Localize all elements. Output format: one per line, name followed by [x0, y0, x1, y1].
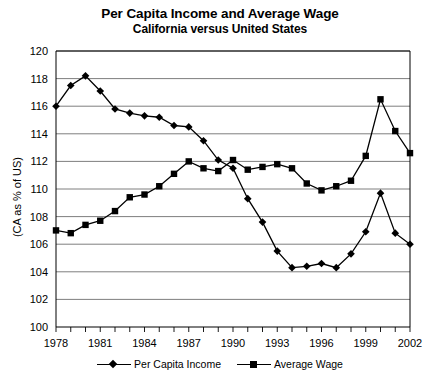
y-tick-label: 114	[30, 128, 48, 140]
y-tick-label: 108	[30, 211, 48, 223]
data-point-marker	[97, 218, 103, 224]
data-point-marker	[200, 165, 206, 171]
data-point-marker	[230, 157, 236, 163]
data-point-marker	[244, 195, 252, 203]
data-point-marker	[53, 227, 59, 233]
data-point-marker	[392, 128, 398, 134]
data-point-marker	[407, 150, 413, 156]
data-point-marker	[68, 230, 74, 236]
y-tick-label: 118	[30, 73, 48, 85]
data-point-marker	[333, 183, 339, 189]
data-point-marker	[303, 262, 311, 270]
data-point-marker	[141, 191, 147, 197]
chart-legend: Per Capita Income Average Wage	[0, 358, 440, 370]
y-tick-label: 112	[30, 155, 48, 167]
chart-container: Per Capita Income and Average Wage Calif…	[0, 0, 440, 386]
data-point-marker	[259, 164, 265, 170]
y-tick-label: 120	[30, 45, 48, 57]
data-point-marker	[156, 183, 162, 189]
legend-item-average-wage[interactable]: Average Wage	[237, 358, 343, 370]
data-point-marker	[274, 161, 280, 167]
data-point-marker	[171, 171, 177, 177]
legend-label: Per Capita Income	[134, 358, 221, 370]
data-point-marker	[377, 96, 383, 102]
y-tick-label: 110	[30, 183, 48, 195]
x-tick-label: 1978	[44, 337, 68, 349]
data-point-marker	[289, 165, 295, 171]
y-tick-label: 106	[30, 238, 48, 250]
legend-label: Average Wage	[274, 358, 343, 370]
data-point-marker	[377, 189, 385, 197]
data-point-marker	[126, 109, 134, 117]
data-point-marker	[318, 260, 326, 268]
legend-item-per-capita-income[interactable]: Per Capita Income	[97, 358, 221, 370]
data-point-marker	[245, 166, 251, 172]
y-tick-label: 100	[30, 321, 48, 333]
data-point-marker	[170, 122, 178, 130]
x-tick-label: 1993	[265, 337, 289, 349]
diamond-marker-icon	[97, 358, 131, 370]
x-tick-label: 1990	[221, 337, 245, 349]
x-tick-label: 1981	[88, 337, 112, 349]
x-tick-marks-group	[56, 327, 410, 332]
x-tick-label: 1999	[354, 337, 378, 349]
x-tick-label: 1984	[132, 337, 156, 349]
data-point-marker	[304, 180, 310, 186]
data-point-marker	[186, 158, 192, 164]
data-point-marker	[229, 165, 237, 173]
data-point-marker	[363, 153, 369, 159]
data-point-marker	[82, 222, 88, 228]
y-tick-label: 102	[30, 293, 48, 305]
data-point-marker	[112, 208, 118, 214]
y-tick-labels-group: 100102104106108110112114116118120	[30, 45, 48, 333]
y-tick-label: 116	[30, 100, 48, 112]
x-tick-label: 1987	[177, 337, 201, 349]
x-tick-labels-group: 197819811984198719901993199619992002	[44, 337, 422, 349]
plot-area: 100102104106108110112114116118120 197819…	[0, 0, 440, 386]
data-series-layer	[52, 72, 414, 271]
data-point-marker	[348, 178, 354, 184]
data-point-marker	[215, 168, 221, 174]
y-tick-label: 104	[30, 266, 48, 278]
data-point-marker	[362, 228, 370, 236]
x-tick-label: 1996	[309, 337, 333, 349]
data-point-marker	[141, 112, 149, 120]
x-tick-label: 2002	[398, 337, 422, 349]
data-point-marker	[127, 194, 133, 200]
data-point-marker	[155, 113, 163, 121]
square-marker-icon	[237, 358, 271, 370]
gridlines-group	[56, 51, 410, 299]
data-point-marker	[318, 187, 324, 193]
data-point-marker	[259, 218, 267, 226]
